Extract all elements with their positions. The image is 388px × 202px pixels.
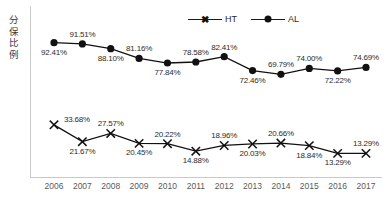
x-tick-2010: 2010 (158, 181, 177, 191)
data-point-al-2009 (135, 55, 142, 62)
x-tick-2016: 2016 (328, 181, 347, 191)
x-tick-2006: 2006 (45, 181, 64, 191)
data-point-ht-2008 (107, 129, 115, 137)
x-axis-ticks: 2006200720082009201020112012201320142015… (30, 181, 382, 195)
x-tick-2007: 2007 (73, 181, 92, 191)
value-label-ht-2013: 20.03% (240, 149, 266, 158)
y-axis-title-char: 分 (4, 14, 24, 26)
y-axis-title-char: 例 (4, 49, 24, 61)
value-label-al-2015: 74.00% (296, 54, 322, 63)
x-tick-2017: 2017 (357, 181, 376, 191)
value-label-ht-2016: 13.29% (325, 158, 351, 167)
value-label-al-2013: 72.46% (240, 76, 266, 85)
x-tick-2012: 2012 (215, 181, 234, 191)
value-label-ht-2008: 27.57% (98, 119, 124, 128)
x-tick-2015: 2015 (300, 181, 319, 191)
value-label-ht-2006: 33.68% (64, 115, 90, 124)
data-point-ht-2007 (78, 137, 86, 145)
data-point-al-2014 (277, 71, 284, 78)
x-tick-2008: 2008 (101, 181, 120, 191)
value-label-ht-2017: 13.29% (353, 139, 379, 148)
data-point-al-2013 (249, 67, 256, 74)
data-point-ht-2006 (50, 121, 58, 129)
value-label-al-2012: 82.41% (211, 43, 237, 52)
x-tick-2013: 2013 (243, 181, 262, 191)
x-tick-2014: 2014 (271, 181, 290, 191)
value-label-ht-2011: 14.88% (183, 156, 209, 165)
value-label-al-2017: 74.69% (353, 53, 379, 62)
value-label-ht-2009: 20.45% (126, 148, 152, 157)
value-label-ht-2012: 18.96% (211, 131, 237, 140)
data-point-al-2010 (164, 59, 171, 66)
data-point-al-2006 (50, 39, 57, 46)
data-point-al-2015 (306, 65, 313, 72)
data-point-al-2011 (192, 58, 199, 65)
value-label-al-2014: 69.79% (268, 60, 294, 69)
value-label-ht-2010: 20.22% (154, 130, 180, 139)
data-point-al-2007 (79, 40, 86, 47)
chart-figure: 分 保 比 例 ✖ HT AL 92.41%91.51%88.10%81.16%… (0, 0, 388, 202)
data-point-al-2017 (362, 64, 369, 71)
data-point-al-2008 (107, 45, 114, 52)
y-axis-title-char: 保 (4, 26, 24, 38)
value-label-al-2010: 77.84% (154, 68, 180, 77)
y-axis-title-char: 比 (4, 37, 24, 49)
value-label-al-2009: 81.16% (126, 44, 152, 53)
value-label-al-2008: 88.10% (98, 54, 124, 63)
x-tick-2009: 2009 (130, 181, 149, 191)
x-tick-2011: 2011 (187, 181, 205, 191)
value-label-al-2016: 72.22% (325, 76, 351, 85)
data-point-al-2012 (221, 53, 228, 60)
y-axis-title: 分 保 比 例 (4, 14, 24, 60)
plot-area: 92.41%91.51%88.10%81.16%77.84%78.58%82.4… (30, 6, 382, 178)
value-label-ht-2007: 21.67% (69, 147, 95, 156)
value-label-ht-2014: 20.66% (268, 129, 294, 138)
data-point-al-2016 (334, 67, 341, 74)
value-label-al-2007: 91.51% (69, 30, 95, 39)
value-label-ht-2015: 18.84% (296, 151, 322, 160)
series-line-ht (54, 125, 366, 154)
value-label-al-2011: 78.58% (183, 48, 209, 57)
value-label-al-2006: 92.41% (41, 48, 67, 57)
